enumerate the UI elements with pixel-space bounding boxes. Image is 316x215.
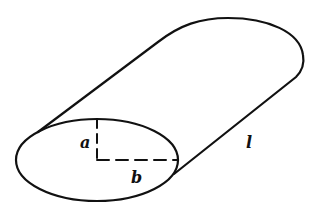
label-a: a: [80, 133, 90, 152]
cylinder-outline: [38, 18, 303, 174]
label-b: b: [131, 168, 142, 187]
elliptical-cylinder-diagram: a b l: [0, 0, 316, 215]
label-l: l: [246, 133, 252, 152]
